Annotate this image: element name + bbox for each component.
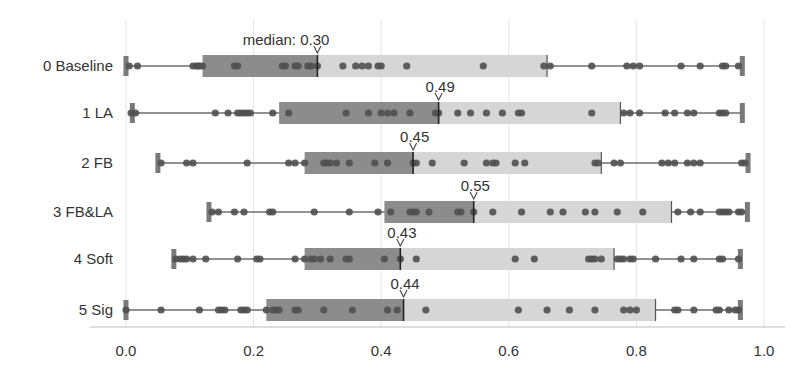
- data-point: [697, 159, 704, 166]
- data-point: [690, 109, 697, 116]
- data-point: [384, 109, 391, 116]
- data-point: [636, 62, 643, 69]
- data-point: [690, 159, 697, 166]
- data-point: [630, 255, 637, 262]
- data-point: [735, 255, 742, 262]
- data-point: [738, 208, 745, 215]
- data-point: [515, 306, 522, 313]
- x-axis-ticks: 0.00.20.40.60.81.0: [116, 342, 775, 359]
- data-point: [623, 62, 630, 69]
- data-point: [588, 62, 595, 69]
- data-point: [221, 306, 228, 313]
- data-point: [311, 255, 318, 262]
- data-point: [244, 159, 251, 166]
- data-point: [620, 306, 627, 313]
- data-point: [543, 306, 550, 313]
- data-point: [489, 208, 496, 215]
- data-point: [352, 62, 359, 69]
- data-point: [349, 306, 356, 313]
- data-point: [591, 255, 598, 262]
- data-point: [518, 109, 525, 116]
- data-point: [677, 62, 684, 69]
- data-point: [317, 255, 324, 262]
- data-point: [697, 62, 704, 69]
- series-row: 5 Sig0.44: [79, 275, 743, 321]
- data-point: [346, 159, 353, 166]
- data-point: [215, 208, 222, 215]
- data-point: [384, 159, 391, 166]
- data-point: [387, 208, 394, 215]
- data-point: [540, 62, 547, 69]
- y-category-label: 3 FB&LA: [53, 203, 113, 220]
- median-value-label: 0.45: [400, 128, 429, 145]
- data-point: [633, 306, 640, 313]
- data-point: [122, 306, 129, 313]
- data-point: [285, 109, 292, 116]
- data-point: [346, 255, 353, 262]
- data-point: [358, 62, 365, 69]
- box-upper-half: [317, 55, 547, 77]
- data-point: [413, 255, 420, 262]
- data-point: [595, 159, 602, 166]
- data-point: [483, 109, 490, 116]
- data-point: [378, 109, 385, 116]
- data-point: [639, 208, 646, 215]
- data-point: [547, 208, 554, 215]
- median-value-label: median: 0.30: [243, 31, 330, 48]
- data-point: [285, 159, 292, 166]
- data-point: [311, 208, 318, 215]
- data-point: [365, 109, 372, 116]
- series-row: 4 Soft0.43: [74, 224, 743, 270]
- data-point: [234, 62, 241, 69]
- data-point: [244, 306, 251, 313]
- data-point: [614, 208, 621, 215]
- data-point: [240, 208, 247, 215]
- data-point: [531, 255, 538, 262]
- data-point: [499, 109, 506, 116]
- data-point: [457, 208, 464, 215]
- data-point: [620, 109, 627, 116]
- data-point: [461, 159, 468, 166]
- data-point: [263, 306, 270, 313]
- data-point: [582, 208, 589, 215]
- data-point: [224, 109, 231, 116]
- data-point: [719, 255, 726, 262]
- data-point: [209, 208, 216, 215]
- data-point: [183, 255, 190, 262]
- data-point: [327, 255, 334, 262]
- median-value-label: 0.55: [461, 177, 490, 194]
- data-point: [132, 109, 139, 116]
- data-point: [620, 255, 627, 262]
- data-point: [189, 255, 196, 262]
- x-tick-label: 1.0: [754, 342, 775, 359]
- data-point: [320, 306, 327, 313]
- data-point: [301, 255, 308, 262]
- data-point: [269, 109, 276, 116]
- data-point: [333, 159, 340, 166]
- data-point: [291, 159, 298, 166]
- data-point: [626, 306, 633, 313]
- y-category-label: 5 Sig: [79, 301, 113, 318]
- data-point: [722, 62, 729, 69]
- data-point: [566, 306, 573, 313]
- data-point: [716, 306, 723, 313]
- data-point: [374, 208, 381, 215]
- data-point: [231, 208, 238, 215]
- series-row: 1 LA0.49: [82, 78, 745, 124]
- data-point: [588, 109, 595, 116]
- data-point: [234, 255, 241, 262]
- data-point: [134, 62, 141, 69]
- data-point: [126, 62, 133, 69]
- data-point: [394, 306, 401, 313]
- x-tick-label: 0.0: [116, 342, 137, 359]
- data-point: [406, 109, 413, 116]
- box-strip-chart: 0.00.20.40.60.81.00 Baselinemedian: 0.30…: [0, 0, 812, 375]
- data-point: [512, 255, 519, 262]
- data-point: [677, 255, 684, 262]
- median-value-label: 0.43: [387, 224, 416, 241]
- data-point: [725, 208, 732, 215]
- data-point: [183, 159, 190, 166]
- data-point: [429, 159, 436, 166]
- y-category-label: 0 Baseline: [43, 57, 113, 74]
- data-point: [378, 62, 385, 69]
